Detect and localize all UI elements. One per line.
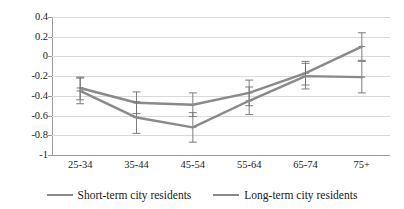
x-tick-label: 55-64 — [237, 159, 262, 171]
legend-line-swatch-short-term — [47, 194, 73, 196]
x-tick-label: 75+ — [354, 159, 370, 171]
legend-label-short-term: Short-term city residents — [78, 189, 192, 202]
chart-container: 0.40.20-0.2-0.4-0.6-0.8-1 25-3435-4445-5… — [0, 0, 404, 209]
x-tick-label: 45-54 — [181, 159, 206, 171]
chart-legend: Short-term city residents Long-term city… — [0, 184, 404, 206]
x-tick-label: 65-74 — [293, 159, 318, 171]
series-long-term — [76, 61, 366, 142]
series-short-term — [76, 33, 366, 117]
legend-label-long-term: Long-term city residents — [244, 189, 357, 202]
legend-item-long-term: Long-term city residents — [213, 189, 357, 202]
legend-line-swatch-long-term — [213, 194, 239, 196]
legend-item-short-term: Short-term city residents — [47, 189, 192, 202]
x-tick-label: 25-34 — [68, 159, 93, 171]
series-layer — [0, 0, 404, 209]
series-line — [80, 76, 362, 127]
x-tick-label: 35-44 — [124, 159, 149, 171]
x-axis: 25-3435-4445-5455-6465-7475+ — [52, 159, 390, 175]
